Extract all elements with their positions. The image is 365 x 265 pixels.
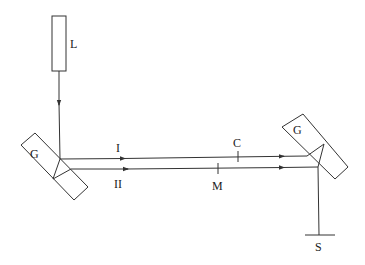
left-glass-plate: G xyxy=(21,133,88,200)
light-source: L xyxy=(52,16,77,71)
output-beam xyxy=(318,167,319,235)
left-plate-label: G xyxy=(30,147,39,161)
ray-2: II xyxy=(71,167,318,191)
medium: M xyxy=(212,163,223,193)
left-plate-outline xyxy=(21,133,88,200)
ray-2-label: II xyxy=(114,177,122,191)
light-source-box xyxy=(52,16,66,71)
interferometer-diagram: L G I II C M G xyxy=(0,0,365,265)
compensator: C xyxy=(233,136,241,162)
right-plate-label: G xyxy=(293,123,302,137)
screen-label: S xyxy=(315,240,322,254)
ray-1-label: I xyxy=(116,141,120,155)
incident-beam xyxy=(59,71,60,159)
screen: S xyxy=(305,235,335,254)
medium-label: M xyxy=(212,179,223,193)
ray-1: I xyxy=(60,141,307,159)
right-glass-plate: G xyxy=(282,114,348,179)
light-source-label: L xyxy=(70,37,77,51)
compensator-label: C xyxy=(233,136,241,150)
right-plate-outline xyxy=(282,114,348,179)
